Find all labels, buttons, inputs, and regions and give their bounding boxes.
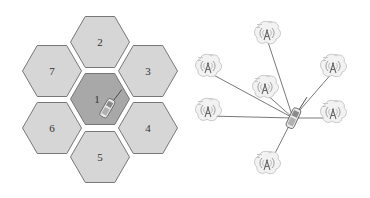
hex-cell-label: 1 xyxy=(94,93,100,105)
hex-cell-label: 4 xyxy=(145,122,151,134)
hex-cell-label: 5 xyxy=(97,151,103,163)
base-station-network xyxy=(196,21,347,174)
hex-cell-6: 6 xyxy=(21,101,83,155)
base-station-tower-icon xyxy=(196,98,222,121)
hex-cell-7: 7 xyxy=(21,44,83,98)
base-station-tower-icon xyxy=(321,100,347,123)
base-station-tower-icon xyxy=(253,75,279,98)
hex-cell-label: 6 xyxy=(49,122,55,134)
hex-cell-3: 3 xyxy=(117,44,179,98)
cellular-network-diagram: 1234567 xyxy=(0,0,370,198)
hex-cell-label: 3 xyxy=(145,65,151,77)
base-station-tower-icon xyxy=(255,21,281,44)
base-station-tower-icon xyxy=(321,54,347,77)
radio-links xyxy=(208,39,333,169)
mobile-phone-icon xyxy=(285,94,308,129)
hex-cell-label: 2 xyxy=(97,36,103,48)
link-left xyxy=(208,116,293,118)
base-station-tower-icon xyxy=(196,54,222,77)
hex-cell-label: 7 xyxy=(49,65,55,77)
base-station-tower-icon xyxy=(255,151,281,174)
hexagon-cell-grid: 1234567 xyxy=(21,15,179,184)
